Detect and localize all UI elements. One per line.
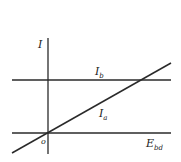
x-axis-label: Ebd [145,137,164,152]
diagram-canvas: I Ib Ia o Ebd [0,0,181,162]
origin-label: o [41,137,46,146]
y-axis-label: I [37,38,43,51]
ib-label: Ib [94,65,104,80]
ia-label: Ia [98,107,108,122]
